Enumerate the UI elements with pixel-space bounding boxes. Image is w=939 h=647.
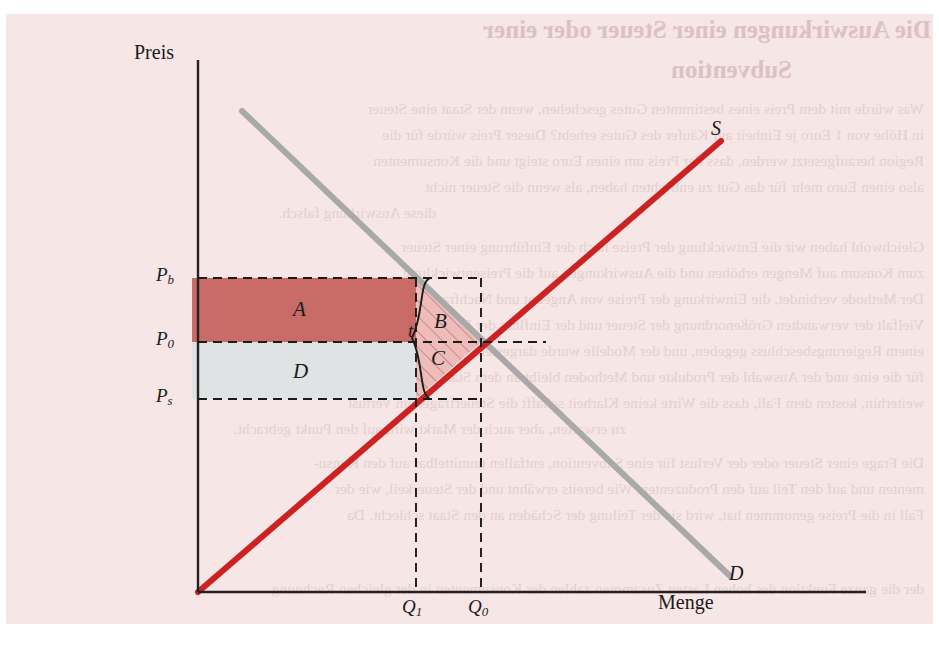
area-label-B: B [434, 309, 447, 334]
x-axis-label: Menge [658, 591, 714, 614]
supply-curve-label: S [711, 117, 721, 140]
area-C-triangle [416, 342, 481, 399]
quantity-tick-q0: Q0 [468, 596, 488, 620]
area-label-A: A [293, 297, 306, 322]
figure-page: Die Auswirkungen einer Steuer oder einer… [0, 0, 939, 647]
demand-curve-label: D [729, 562, 743, 585]
area-label-D: D [293, 359, 308, 384]
y-axis-label: Preis [134, 41, 174, 64]
area-label-C: C [431, 346, 445, 371]
price-tick-p0: P0 [156, 328, 174, 352]
quantity-tick-q1: Q1 [402, 596, 422, 620]
price-tick-ps: Ps [156, 385, 173, 409]
price-tick-pb: Pb [156, 264, 174, 288]
supply-demand-tax-chart [6, 14, 933, 624]
tax-brace-label: t [408, 320, 413, 342]
book-page-panel: Die Auswirkungen einer Steuer oder einer… [6, 14, 933, 624]
